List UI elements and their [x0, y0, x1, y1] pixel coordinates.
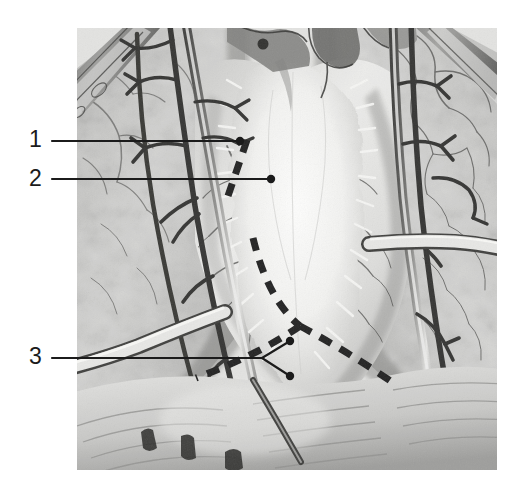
illustration-page: 1 2 3: [0, 0, 531, 493]
callout-number-2: 2: [29, 167, 42, 190]
anatomical-illustration: [77, 28, 497, 470]
callout-number-1: 1: [29, 128, 42, 151]
callout-number-3: 3: [29, 345, 42, 368]
illustration-body: [77, 28, 497, 470]
